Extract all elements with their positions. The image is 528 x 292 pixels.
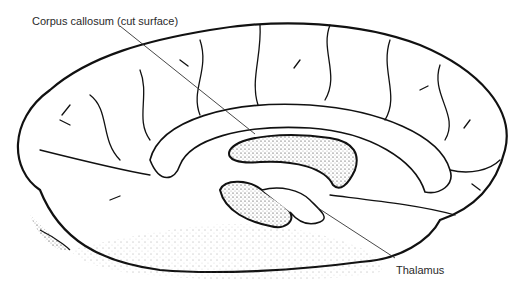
brain-medial-diagram: [0, 0, 528, 292]
thalamus-label: Thalamus: [396, 264, 444, 276]
corpus-callosum-label: Corpus callosum (cut surface): [32, 15, 178, 27]
